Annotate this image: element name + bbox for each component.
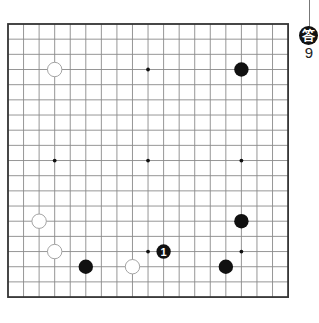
star-point-icon bbox=[146, 250, 150, 254]
answer-badge-icon: 答 bbox=[299, 26, 318, 45]
star-point-icon bbox=[146, 159, 150, 163]
star-point-icon bbox=[53, 159, 57, 163]
black-stone bbox=[79, 260, 93, 274]
white-stone bbox=[32, 214, 46, 228]
white-stone bbox=[47, 244, 61, 258]
badge-connector-line bbox=[309, 0, 310, 27]
stones-layer: 1 bbox=[32, 62, 249, 274]
answer-number: 9 bbox=[299, 45, 319, 61]
white-stone bbox=[125, 260, 139, 274]
star-point-icon bbox=[240, 250, 244, 254]
go-board[interactable]: 1 bbox=[0, 0, 319, 323]
white-stone bbox=[47, 62, 61, 76]
star-point-icon bbox=[240, 159, 244, 163]
black-stone bbox=[234, 62, 248, 76]
move-number-label: 1 bbox=[161, 246, 167, 258]
black-stone bbox=[234, 214, 248, 228]
black-stone-move-1: 1 bbox=[156, 244, 170, 258]
star-point-icon bbox=[146, 68, 150, 72]
black-stone bbox=[219, 260, 233, 274]
